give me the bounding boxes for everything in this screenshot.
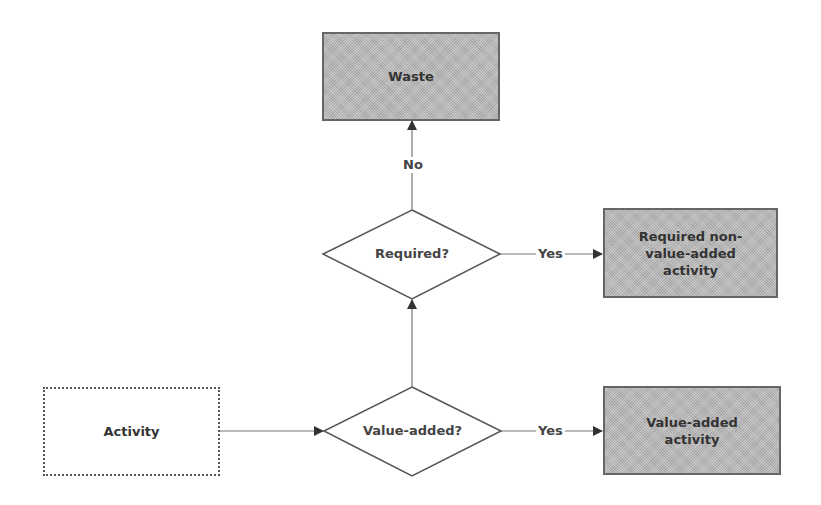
waste-label: Waste (388, 68, 433, 85)
activity-node: Activity (43, 387, 220, 476)
value-added-activity-label-line-2: activity (646, 431, 738, 448)
required-nva-label-line-2: value-added (639, 245, 743, 262)
required-diamond-label: Required? (323, 246, 501, 262)
edge-label-yes-required: Yes (536, 246, 565, 262)
edge-label-no: No (401, 157, 425, 173)
value-added-activity-node: Value-added activity (603, 386, 781, 475)
value-added-activity-label-line-1: Value-added (646, 414, 738, 431)
edge-label-yes-value-added: Yes (536, 423, 565, 439)
activity-label: Activity (103, 423, 159, 440)
required-nva-node: Required non- value-added activity (603, 208, 778, 298)
flowchart-canvas: Waste No Required? Yes Required non- val… (0, 0, 821, 505)
required-nva-label-line-1: Required non- (639, 228, 743, 245)
required-nva-label-line-3: activity (639, 262, 743, 279)
waste-node: Waste (322, 32, 500, 121)
value-added-diamond-label: Value-added? (324, 423, 501, 439)
